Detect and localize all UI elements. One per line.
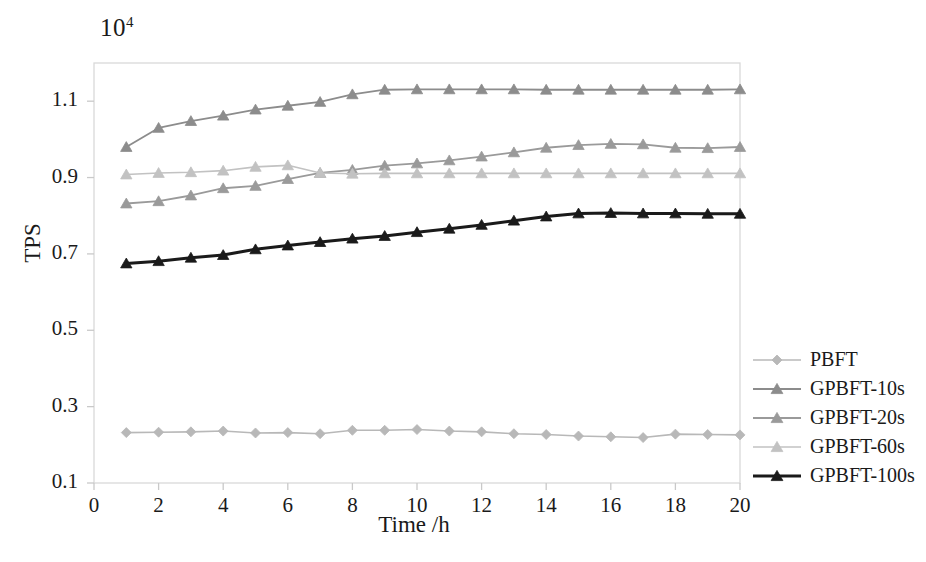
x-tick-label: 0 (74, 493, 114, 518)
legend-label: GPBFT-60s (810, 435, 905, 458)
y-tick-label: 0.9 (18, 164, 78, 189)
series-pbft (121, 425, 745, 443)
legend-marker-icon (752, 437, 802, 457)
legend-label: GPBFT-10s (810, 377, 905, 400)
y-tick-label: 0.7 (18, 240, 78, 265)
chart-figure: 104 TPS Time /h 0.10.30.50.70.91.1 02468… (0, 0, 926, 562)
x-tick-label: 18 (655, 493, 695, 518)
legend-marker-icon (752, 466, 802, 486)
legend-marker-icon (752, 379, 802, 399)
y-tick-label: 1.1 (18, 87, 78, 112)
x-tick-label: 20 (720, 493, 760, 518)
legend-item-pbft[interactable]: PBFT (752, 345, 915, 374)
y-tick-label: 0.5 (18, 316, 78, 341)
y-tick-label: 0.1 (18, 469, 78, 494)
x-tick-label: 6 (268, 493, 308, 518)
legend-item-gpbft-60s[interactable]: GPBFT-60s (752, 432, 915, 461)
x-tick-label: 16 (591, 493, 631, 518)
chart-legend: PBFTGPBFT-10sGPBFT-20sGPBFT-60sGPBFT-100… (752, 345, 915, 490)
legend-item-gpbft-10s[interactable]: GPBFT-10s (752, 374, 915, 403)
legend-label: GPBFT-100s (810, 464, 915, 487)
legend-marker-icon (752, 408, 802, 428)
series-gpbft-10s (121, 84, 746, 151)
legend-item-gpbft-100s[interactable]: GPBFT-100s (752, 461, 915, 490)
x-tick-label: 2 (139, 493, 179, 518)
legend-marker-icon (752, 350, 802, 370)
x-tick-label: 4 (203, 493, 243, 518)
series-gpbft-100s (121, 208, 746, 268)
x-tick-label: 14 (526, 493, 566, 518)
x-tick-label: 10 (397, 493, 437, 518)
y-tick-label: 0.3 (18, 393, 78, 418)
legend-label: PBFT (810, 348, 858, 371)
plot-frame (94, 63, 740, 483)
x-tick-label: 12 (462, 493, 502, 518)
legend-label: GPBFT-20s (810, 406, 905, 429)
legend-item-gpbft-20s[interactable]: GPBFT-20s (752, 403, 915, 432)
x-tick-label: 8 (332, 493, 372, 518)
